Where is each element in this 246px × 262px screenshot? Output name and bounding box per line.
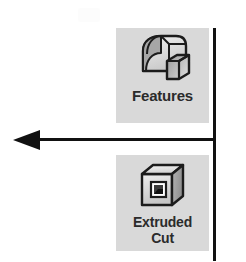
vertical-rule	[213, 28, 216, 261]
toolbar-button-extruded-cut[interactable]: Extruded Cut	[116, 155, 209, 251]
toolbar-button-label-line1: Extruded	[133, 214, 192, 230]
toolbar-button-label: Features	[116, 87, 209, 104]
toolbar-button-features[interactable]: Features	[116, 28, 209, 123]
figure-canvas: Features	[0, 0, 246, 262]
features-solid-icon	[134, 33, 192, 85]
scan-artifact	[78, 8, 100, 22]
arrow-shaft	[34, 138, 215, 141]
toolbar-button-label: Extruded Cut	[116, 214, 209, 246]
extruded-cut-icon	[137, 161, 189, 211]
toolbar-button-label-line2: Cut	[116, 230, 209, 246]
left-arrow-icon	[13, 130, 40, 150]
